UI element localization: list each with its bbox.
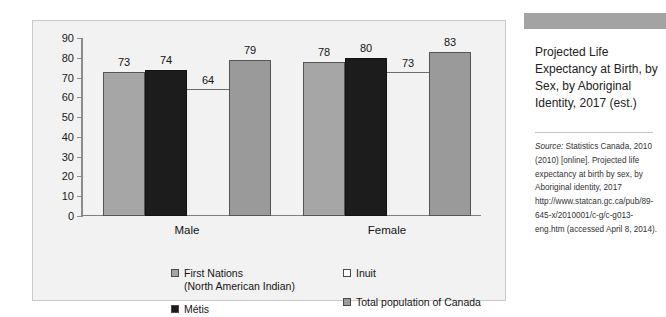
- y-axis-tick: [77, 196, 83, 197]
- y-axis-tick-label: 30: [62, 151, 74, 162]
- bar-value-label: 73: [402, 58, 414, 69]
- y-axis-tick: [77, 117, 83, 118]
- figure-divider: [535, 132, 653, 133]
- bar-female-total-population-of-canada: 83: [429, 52, 471, 216]
- y-axis-tick-label: 60: [62, 92, 74, 103]
- y-axis-tick: [77, 157, 83, 158]
- legend-column-right: Inuit Total population of Canada: [343, 267, 481, 317]
- legend-swatch-icon-metis: [171, 305, 179, 313]
- bar-female-m-tis: 80: [345, 58, 387, 216]
- bar-male-total-population-of-canada: 79: [229, 60, 271, 216]
- x-axis-label-male: Male: [175, 225, 200, 237]
- bar-male-first-nations: 73: [103, 72, 145, 216]
- y-axis-tick: [77, 38, 83, 39]
- y-axis-tick-label: 90: [62, 33, 74, 44]
- legend-label-metis: Métis: [184, 303, 209, 316]
- bar-value-label: 79: [244, 45, 256, 56]
- legend-label-total-population: Total population of Canada: [356, 296, 481, 309]
- bar-female-first-nations: 78: [303, 62, 345, 216]
- bar-value-label: 74: [160, 55, 172, 66]
- legend-swatch-icon-inuit: [343, 269, 351, 277]
- legend-item-total-population: Total population of Canada: [343, 296, 481, 309]
- figure-number: FIGURE 15.2: [535, 1, 608, 15]
- bar-male-inuit: 64: [187, 89, 229, 216]
- y-axis-tick-label: 0: [68, 211, 74, 222]
- y-axis-tick: [77, 176, 83, 177]
- y-axis-tick-label: 20: [62, 171, 74, 182]
- figure-header-band: [524, 13, 666, 29]
- y-axis-line: [81, 38, 83, 216]
- y-axis-tick: [77, 137, 83, 138]
- legend-item-first-nations: First Nations (North American Indian): [171, 267, 295, 294]
- x-axis-label-female: Female: [368, 225, 406, 237]
- y-axis-tick-label: 70: [62, 72, 74, 83]
- legend-column-left: First Nations (North American Indian) Mé…: [171, 267, 295, 317]
- y-axis-tick-label: 10: [62, 191, 74, 202]
- bar-value-label: 83: [444, 37, 456, 48]
- figure-sidebar: FIGURE 15.2 Projected Life Expectancy at…: [524, 0, 666, 317]
- figure-source-label: Source:: [535, 142, 563, 151]
- y-axis-tick: [77, 97, 83, 98]
- legend-item-metis: Métis: [171, 303, 295, 316]
- y-axis-tick: [77, 216, 83, 217]
- legend-item-inuit: Inuit: [343, 267, 481, 280]
- y-axis-tick: [77, 58, 83, 59]
- legend-label-first-nations: First Nations (North American Indian): [184, 267, 295, 294]
- bar-male-m-tis: 74: [145, 70, 187, 216]
- y-axis-tick: [77, 78, 83, 79]
- bar-value-label: 78: [318, 47, 330, 58]
- figure-title: Projected Life Expectancy at Birth, by S…: [535, 44, 659, 112]
- legend-swatch-icon-total-population: [343, 298, 351, 306]
- bar-value-label: 80: [360, 43, 372, 54]
- plot-area: 9080706050403020100 7374647978807383 Mal…: [81, 38, 481, 216]
- legend-label-inuit: Inuit: [356, 267, 376, 280]
- bar-female-inuit: 73: [387, 72, 429, 216]
- y-axis-tick-label: 40: [62, 131, 74, 142]
- figure-source: Source: Statistics Canada, 2010 (2010) […: [535, 140, 661, 236]
- y-axis-tick-label: 80: [62, 52, 74, 63]
- bar-value-label: 73: [118, 57, 130, 68]
- figure-source-text: Statistics Canada, 2010 (2010) [online].…: [535, 142, 657, 234]
- chart-panel: 9080706050403020100 7374647978807383 Mal…: [32, 20, 506, 301]
- legend-swatch-icon-first-nations: [171, 269, 179, 277]
- y-axis-tick-label: 50: [62, 112, 74, 123]
- bar-value-label: 64: [202, 75, 214, 86]
